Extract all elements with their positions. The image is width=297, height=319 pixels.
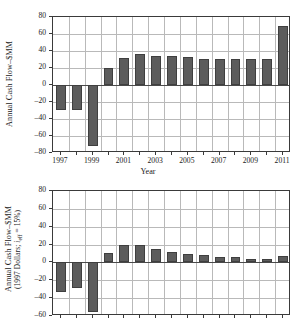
y-tick-label: 40 [22,222,46,230]
chart-top-y-axis-label-text: Annual Cash Flow–$MM [5,41,14,127]
chart-top-x-axis-label-text: Year [140,167,155,176]
x-tick-mark [171,315,172,318]
x-tick-mark [203,315,204,318]
y-tick-label: 0 [22,80,46,88]
gridline-vertical [85,17,86,151]
gridline-vertical [69,191,70,314]
y-tick-mark [49,261,52,262]
y-tick-label: 80 [22,12,46,20]
gridline-vertical [132,17,133,151]
x-tick-mark [139,315,140,318]
gridline-vertical [259,191,260,314]
x-tick-label: 2009 [235,157,265,165]
x-tick-mark [139,152,140,155]
bar [56,262,66,291]
y-tick-label: 60 [22,29,46,37]
gridline-vertical [148,191,149,314]
bar [119,245,129,262]
bar [231,59,241,85]
x-tick-label: 2003 [140,157,170,165]
chart-bottom-ylabel-post: = 15%) [13,209,22,234]
chart-top-plot-area [52,16,290,152]
bar [215,257,225,262]
gridline-vertical [101,191,102,314]
x-tick-mark [203,152,204,155]
y-tick-mark [49,50,52,51]
gridline-vertical [85,191,86,314]
y-tick-label: –40 [22,114,46,122]
chart-top-annual-cash-flow: Annual Cash Flow–$MM Year 806040200–20–4… [0,0,296,180]
y-tick-label: 20 [22,63,46,71]
bar [231,257,241,262]
x-tick-mark [187,315,188,318]
y-tick-mark [49,297,52,298]
y-tick-label: 60 [22,204,46,212]
chart-bottom-plot-area [52,190,290,315]
x-tick-label: 2011 [267,157,297,165]
gridline-vertical [275,191,276,314]
y-tick-mark [49,118,52,119]
y-tick-label: 20 [22,240,46,248]
x-tick-mark [60,152,61,155]
gridline-vertical [259,17,260,151]
gridline-vertical [196,191,197,314]
bar [88,85,98,146]
gridline-vertical [116,17,117,151]
bar [151,249,161,262]
y-tick-mark [49,208,52,209]
y-tick-label: 0 [22,257,46,265]
gridline-vertical [180,17,181,151]
x-tick-label: 2005 [172,157,202,165]
x-tick-mark [76,152,77,155]
x-tick-mark [219,315,220,318]
chart-bottom-ylabel-pre: (1997 Dollars; [13,242,22,288]
bar [246,259,256,262]
x-tick-mark [234,315,235,318]
bar [56,85,66,110]
y-tick-label: –40 [22,293,46,301]
chart-bottom-ylabel-var: i [13,240,22,242]
x-tick-label: 1999 [77,157,107,165]
y-tick-label: –60 [22,131,46,139]
x-tick-label: 2001 [108,157,138,165]
bar [278,26,288,86]
x-tick-mark [234,152,235,155]
gridline-vertical [101,17,102,151]
bar [72,262,82,288]
x-tick-mark [60,315,61,318]
x-tick-mark [250,152,251,155]
x-tick-mark [219,152,220,155]
x-tick-mark [282,152,283,155]
y-tick-mark [49,67,52,68]
gridline-vertical [243,191,244,314]
gridline-vertical [212,17,213,151]
chart-bottom-y-axis-label-line2: (1997 Dollars; ieff = 15%) [13,209,22,288]
x-tick-mark [171,152,172,155]
gridline-horizontal [53,34,289,35]
y-tick-mark [49,135,52,136]
gridline-vertical [116,191,117,314]
bar [262,59,272,85]
y-tick-mark [49,101,52,102]
x-tick-mark [108,152,109,155]
gridline-vertical [69,17,70,151]
x-tick-mark [123,152,124,155]
x-tick-mark [155,152,156,155]
x-tick-mark [282,315,283,318]
chart-bottom-annual-cash-flow-real: Annual Cash Flow–$MM (1997 Dollars; ieff… [0,186,296,311]
gridline-horizontal [53,209,289,210]
gridline-vertical [212,191,213,314]
y-tick-label: 40 [22,46,46,54]
x-tick-label: 1997 [45,157,75,165]
gridline-vertical [132,191,133,314]
bar [104,68,114,85]
bar [183,57,193,85]
x-tick-mark [155,315,156,318]
chart-top-x-axis-label: Year [0,168,296,176]
gridline-vertical [196,17,197,151]
bar [88,262,98,311]
bar [104,253,114,263]
x-tick-mark [123,315,124,318]
y-tick-label: –80 [22,148,46,156]
gridline-vertical [164,17,165,151]
